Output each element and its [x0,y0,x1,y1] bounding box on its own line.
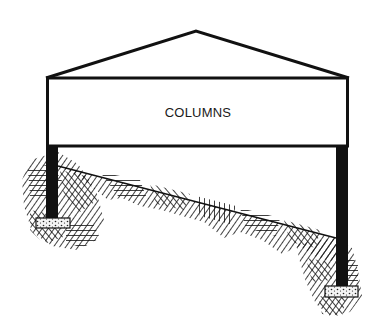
left-footing [36,218,70,228]
roof-triangle [46,31,349,78]
left-column [46,146,58,220]
ground-hatching [22,152,362,316]
right-footing [325,286,358,297]
diagram-canvas [0,0,386,330]
columns-diagram: COLUMNS [0,0,386,330]
right-column [336,146,348,288]
beam-label: COLUMNS [46,78,350,146]
